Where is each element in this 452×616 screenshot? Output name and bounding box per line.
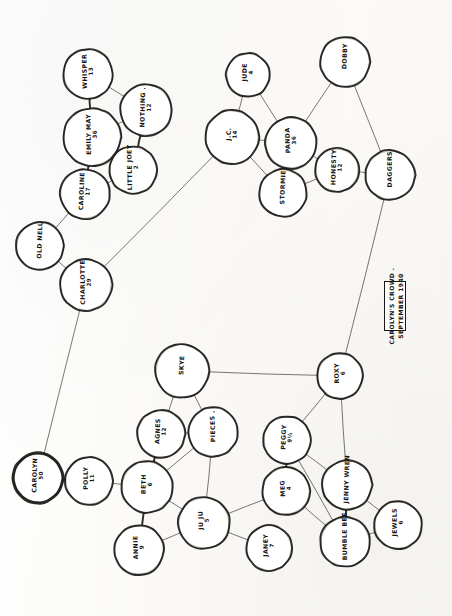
node-old_nell[interactable] [16, 222, 64, 270]
node-agnes[interactable] [137, 410, 185, 458]
edge-panda-dobby [305, 83, 331, 122]
caption-line-1: CAROLYN'S CROWD . [386, 267, 395, 344]
edge-pieces-ju_ju [207, 457, 211, 497]
edge-whisper-nothing [109, 87, 124, 96]
node-roxy[interactable] [317, 353, 363, 399]
edge-jc-stormie [250, 157, 267, 175]
edge-charlotte-carolyn [44, 310, 80, 454]
node-beth[interactable] [121, 461, 173, 513]
node-janey[interactable] [246, 525, 292, 571]
edge-meg-bumble_bee [304, 507, 326, 526]
node-jenny_wren[interactable] [322, 460, 373, 510]
node-jude[interactable] [226, 53, 270, 97]
node-annie[interactable] [114, 525, 164, 575]
node-carolyn[interactable] [13, 453, 63, 503]
sociogram-canvas: WHISPER13EMILY MAY36NOTHING .12LITTLE JO… [0, 0, 452, 616]
edge-dobby-daggers [354, 85, 381, 152]
node-nothing[interactable] [120, 84, 172, 136]
node-polly[interactable] [65, 457, 113, 505]
node-peggy[interactable] [263, 416, 311, 464]
edge-jude-panda [260, 94, 277, 121]
edge-beth-ju_ju [169, 501, 182, 509]
node-skye[interactable] [155, 344, 209, 398]
edge-roxy-skye [209, 372, 317, 375]
edge-polly-beth [113, 483, 121, 484]
edge-stormie-honesty [305, 179, 317, 184]
edge-nothing-little_joey [138, 135, 140, 146]
node-caroline[interactable] [60, 169, 110, 219]
edge-ju_ju-janey [228, 532, 247, 539]
node-daggers[interactable] [365, 150, 416, 200]
node-bumble_bee[interactable] [320, 517, 370, 567]
edge-skye-pieces [194, 395, 201, 410]
edge-skye-agnes [169, 397, 174, 412]
node-charlotte[interactable] [60, 259, 113, 311]
node-layer [13, 37, 422, 575]
node-dobby[interactable] [320, 37, 370, 87]
node-meg[interactable] [262, 467, 310, 515]
node-honesty[interactable] [315, 148, 359, 192]
edge-ju_ju-meg [228, 500, 263, 514]
edge-jenny_wren-jewels [367, 500, 379, 510]
node-stormie[interactable] [259, 169, 307, 217]
node-jc[interactable] [205, 110, 259, 164]
node-jewels[interactable] [374, 501, 422, 549]
node-whisper[interactable] [63, 49, 113, 99]
edge-peggy-jenny_wren [306, 454, 327, 470]
edge-daggers-roxy [346, 199, 384, 353]
node-ju_ju[interactable] [178, 497, 230, 549]
edge-roxy-jenny_wren [341, 399, 345, 460]
caption-box: CAROLYN'S CROWD . SEPTEMBER 1940 [384, 281, 406, 331]
node-panda[interactable] [265, 117, 317, 169]
caption-text: CAROLYN'S CROWD . SEPTEMBER 1940 [386, 267, 404, 344]
edge-caroline-old_nell [56, 213, 69, 228]
edge-beth-annie [142, 513, 144, 525]
edge-whisper-emily_may [90, 99, 91, 108]
node-little_joey[interactable] [109, 146, 157, 194]
edge-annie-ju_ju [162, 533, 180, 540]
edge-roxy-peggy [302, 394, 325, 422]
edge-old_nell-charlotte [58, 262, 66, 269]
caption-line-2: SEPTEMBER 1940 [395, 267, 404, 344]
node-pieces[interactable] [188, 407, 238, 457]
edge-jude-jc [239, 96, 243, 111]
